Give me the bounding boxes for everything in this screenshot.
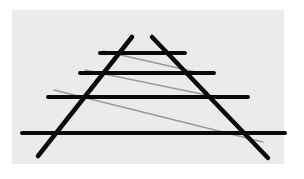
gray-panel: [12, 10, 284, 164]
ponzo-illusion-figure: [0, 0, 304, 179]
